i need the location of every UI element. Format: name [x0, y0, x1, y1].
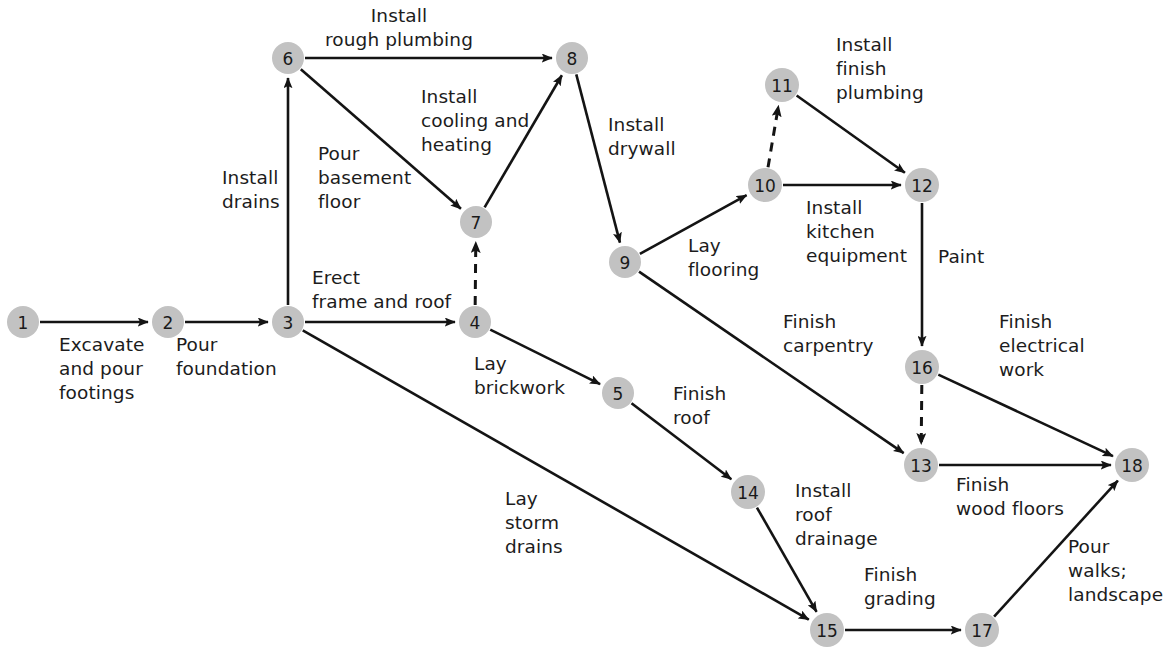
- edge-label-2-to-3: Pour foundation: [176, 333, 277, 381]
- node-18[interactable]: 18: [1115, 448, 1149, 482]
- node-label-3: 3: [283, 313, 294, 333]
- node-label-16: 16: [911, 358, 933, 378]
- edge-label-6-to-7: Pour basement floor: [318, 142, 411, 214]
- edge-label-4-to-5: Lay brickwork: [474, 352, 565, 400]
- edge-label-11-to-12: Install finish plumbing: [836, 33, 924, 105]
- node-label-18: 18: [1121, 456, 1143, 476]
- node-label-10: 10: [754, 176, 776, 196]
- node-label-5: 5: [613, 384, 624, 404]
- node-label-2: 2: [163, 313, 174, 333]
- edge-11-to-12: [797, 95, 905, 172]
- edge-label-9-to-13: Finish carpentry: [783, 310, 874, 358]
- edge-label-7-to-8: Install cooling and heating: [421, 85, 529, 157]
- edge-label-14-to-15: Install roof drainage: [795, 479, 878, 551]
- node-6[interactable]: 6: [272, 42, 304, 74]
- network-diagram: 123456789101112131415161718 Excavate and…: [0, 0, 1170, 650]
- edge-label-6-to-8: Install rough plumbing: [325, 4, 473, 52]
- node-label-8: 8: [567, 49, 578, 69]
- node-label-13: 13: [910, 456, 932, 476]
- edge-label-1-to-2: Excavate and pour footings: [59, 333, 145, 405]
- node-10[interactable]: 10: [748, 168, 782, 202]
- edge-label-8-to-9: Install drywall: [608, 113, 676, 161]
- node-9[interactable]: 9: [609, 246, 641, 278]
- node-label-4: 4: [470, 313, 481, 333]
- edge-label-12-to-16: Paint: [938, 245, 984, 269]
- node-12[interactable]: 12: [905, 168, 939, 202]
- node-17[interactable]: 17: [965, 613, 999, 647]
- edge-label-3-to-6: Install drains: [222, 166, 280, 214]
- node-13[interactable]: 13: [904, 448, 938, 482]
- node-label-9: 9: [620, 253, 631, 273]
- node-14[interactable]: 14: [731, 475, 765, 509]
- edge-16-to-18: [938, 375, 1113, 457]
- network-graph-canvas: 123456789101112131415161718: [0, 0, 1170, 650]
- node-8[interactable]: 8: [556, 42, 588, 74]
- node-label-6: 6: [283, 49, 294, 69]
- edge-label-3-to-4: Erect frame and roof: [312, 266, 451, 314]
- node-1[interactable]: 1: [7, 306, 39, 338]
- node-label-14: 14: [737, 483, 759, 503]
- edge-label-5-to-14: Finish roof: [673, 382, 726, 430]
- edge-label-13-to-18: Finish wood floors: [956, 473, 1064, 521]
- node-11[interactable]: 11: [765, 68, 799, 102]
- edge-10-to-11: [768, 106, 778, 168]
- edge-label-16-to-18: Finish electrical work: [999, 310, 1085, 382]
- node-label-12: 12: [911, 176, 933, 196]
- node-label-7: 7: [471, 213, 482, 233]
- node-label-17: 17: [971, 621, 993, 641]
- edge-label-15-to-17: Finish grading: [864, 563, 936, 611]
- edge-label-9-to-10: Lay flooring: [688, 234, 759, 282]
- node-5[interactable]: 5: [602, 377, 634, 409]
- node-4[interactable]: 4: [459, 306, 491, 338]
- node-label-1: 1: [18, 313, 29, 333]
- edge-label-17-to-18: Pour walks; landscape: [1068, 535, 1163, 607]
- node-label-15: 15: [816, 621, 838, 641]
- edge-label-3-to-15: Lay storm drains: [505, 487, 563, 559]
- node-7[interactable]: 7: [460, 206, 492, 238]
- node-16[interactable]: 16: [905, 350, 939, 384]
- node-15[interactable]: 15: [810, 613, 844, 647]
- edge-16-to-13: [921, 385, 922, 444]
- edge-4-to-7: [475, 242, 476, 305]
- edge-label-10-to-12: Install kitchen equipment: [806, 196, 907, 268]
- node-label-11: 11: [771, 76, 793, 96]
